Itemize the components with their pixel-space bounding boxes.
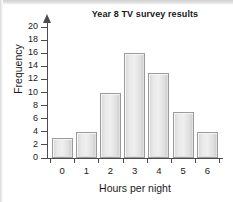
y-tick-mark (41, 144, 47, 145)
y-tick-mark (41, 53, 47, 54)
y-tick-mark (41, 131, 47, 132)
y-tick-mark (41, 66, 47, 67)
y-tick-mark (41, 40, 47, 41)
y-tick-mark (41, 92, 47, 93)
y-tick-mark (41, 79, 47, 80)
bar (100, 93, 121, 159)
x-tick-label: 1 (76, 165, 96, 176)
x-tick-mark (98, 158, 99, 163)
plot-area: 02468101214161820 0123456 (0, 0, 233, 202)
x-tick-label: 3 (125, 165, 145, 176)
bar (197, 132, 218, 158)
x-tick-label: 2 (101, 165, 121, 176)
x-tick-label: 4 (149, 165, 169, 176)
y-tick-label: 4 (16, 126, 38, 136)
bar (124, 53, 145, 158)
x-tick-label: 0 (52, 165, 72, 176)
bar (52, 138, 73, 158)
y-axis-arrow-icon (43, 14, 51, 23)
bar (173, 112, 194, 158)
x-tick-mark (147, 158, 148, 163)
y-tick-label: 0 (16, 152, 38, 162)
x-axis-title: Hours per night (45, 182, 225, 194)
x-tick-mark (171, 158, 172, 163)
x-tick-mark (195, 158, 196, 163)
y-tick-mark (41, 118, 47, 119)
x-tick-label: 6 (197, 165, 217, 176)
y-tick-label: 2 (16, 139, 38, 149)
y-axis-title: Frequency (12, 19, 24, 119)
x-tick-mark (50, 158, 51, 163)
y-axis-line (47, 22, 48, 159)
y-tick-mark (41, 105, 47, 106)
bar (148, 73, 169, 158)
x-tick-mark (74, 158, 75, 163)
y-tick-mark (41, 158, 47, 159)
x-tick-mark (123, 158, 124, 163)
chart-figure: Year 8 TV survey results 024681012141618… (0, 0, 233, 202)
x-tick-label: 5 (173, 165, 193, 176)
bar (76, 132, 97, 158)
x-tick-mark (219, 158, 220, 163)
y-tick-mark (41, 27, 47, 28)
